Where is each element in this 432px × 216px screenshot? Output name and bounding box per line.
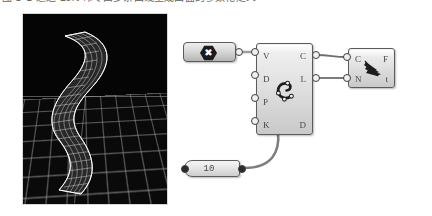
input-label-v: V	[263, 52, 270, 61]
input-grip-d[interactable]	[251, 71, 259, 79]
input-label-k: K	[263, 121, 270, 130]
output-label-c: C	[300, 52, 306, 61]
input-label-p: P	[263, 98, 268, 107]
param-output-grip[interactable]	[235, 48, 243, 56]
rhino-3d-viewport[interactable]	[22, 13, 168, 205]
curve-parameter-component[interactable]: ✖	[183, 42, 236, 62]
slider-output-grip[interactable]	[238, 165, 246, 173]
grasshopper-canvas[interactable]: ✖ V D P K C L D C N F t	[176, 10, 432, 206]
loft-component[interactable]: C N F t	[348, 48, 395, 88]
hexagon-x-glyph: ✖	[200, 45, 217, 61]
number-slider-component[interactable]: 10	[184, 160, 240, 177]
lofted-surface-mesh	[23, 14, 168, 205]
input-grip-k[interactable]	[251, 117, 259, 125]
interpolate-curve-component[interactable]: V D P K C L D	[256, 43, 313, 135]
output-label-t: t	[385, 75, 388, 84]
figure-caption-text: 图 3-1 通过 Loft 命令由多条曲线生成曲面的参数化定义	[2, 0, 256, 3]
hexagon-x-icon: ✖	[200, 45, 217, 61]
loft-surface-icon	[362, 59, 383, 79]
slider-left-grip[interactable]	[181, 165, 189, 173]
output-grip-c[interactable]	[312, 51, 320, 59]
output-label-d: D	[300, 121, 307, 130]
loft-input-grip-c[interactable]	[343, 53, 351, 61]
input-label-c: C	[355, 55, 361, 64]
output-grip-l[interactable]	[312, 74, 320, 82]
input-grip-p[interactable]	[251, 94, 259, 102]
output-label-f: F	[383, 55, 388, 64]
input-label-d: D	[263, 75, 270, 84]
loft-input-grip-n[interactable]	[343, 74, 351, 82]
curve-interpolate-icon	[273, 78, 299, 104]
input-label-n: N	[355, 75, 362, 84]
output-label-l: L	[301, 75, 307, 84]
figure-caption: 图 3-1 通过 Loft 命令由多条曲线生成曲面的参数化定义	[0, 0, 432, 5]
number-slider-value: 10	[185, 161, 233, 178]
input-grip-v[interactable]	[251, 48, 259, 56]
